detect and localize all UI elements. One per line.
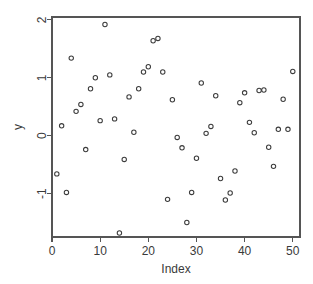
- data-point: [252, 131, 256, 135]
- x-axis-tick-label: 10: [93, 244, 107, 258]
- data-point: [233, 169, 237, 173]
- data-point: [108, 73, 112, 77]
- data-point: [276, 127, 280, 131]
- data-point: [117, 231, 121, 235]
- data-point: [103, 22, 107, 26]
- data-point: [214, 94, 218, 98]
- data-point: [98, 118, 102, 122]
- data-point: [218, 176, 222, 180]
- y-axis-tick-label: 1: [35, 74, 49, 81]
- data-point: [281, 97, 285, 101]
- data-point: [112, 117, 116, 121]
- data-point: [257, 88, 261, 92]
- y-axis-tick-label: -1: [35, 188, 49, 199]
- data-point: [127, 95, 131, 99]
- y-axis-tick-label: 0: [35, 132, 49, 139]
- data-point: [93, 76, 97, 80]
- data-point: [132, 130, 136, 134]
- data-point: [165, 197, 169, 201]
- data-point: [271, 164, 275, 168]
- x-axis-tick-label: 50: [286, 244, 300, 258]
- data-point: [170, 98, 174, 102]
- data-point: [146, 65, 150, 69]
- y-axis-title: y: [11, 124, 25, 130]
- data-point: [247, 120, 251, 124]
- data-point: [59, 124, 63, 128]
- data-point: [55, 172, 59, 176]
- data-point: [185, 220, 189, 224]
- data-point: [141, 70, 145, 74]
- x-axis-tick-label: 30: [190, 244, 204, 258]
- data-point: [156, 36, 160, 40]
- data-point: [267, 145, 271, 149]
- data-point: [199, 81, 203, 85]
- data-point: [228, 191, 232, 195]
- data-point: [180, 146, 184, 150]
- data-point: [286, 127, 290, 131]
- x-axis-tick-label: 0: [49, 244, 56, 258]
- data-point: [84, 147, 88, 151]
- data-point: [175, 135, 179, 139]
- data-point: [79, 102, 83, 106]
- data-point: [189, 190, 193, 194]
- plot-canvas: 01020304050-1012Indexy: [0, 0, 313, 284]
- data-point: [209, 124, 213, 128]
- data-point: [194, 156, 198, 160]
- data-point: [238, 100, 242, 104]
- y-axis-tick-label: 2: [35, 16, 49, 23]
- data-point: [151, 39, 155, 43]
- data-point: [242, 91, 246, 95]
- x-axis-title: Index: [161, 262, 190, 276]
- data-point: [204, 131, 208, 135]
- scatter-plot-figure: 01020304050-1012Indexy: [0, 0, 313, 284]
- data-point: [291, 69, 295, 73]
- data-point: [136, 87, 140, 91]
- x-axis-tick-label: 40: [238, 244, 252, 258]
- data-point: [88, 87, 92, 91]
- data-point: [64, 190, 68, 194]
- data-point: [223, 198, 227, 202]
- plot-box-border: [52, 17, 300, 237]
- data-point: [69, 56, 73, 60]
- x-axis-tick-label: 20: [142, 244, 156, 258]
- data-point: [161, 70, 165, 74]
- data-point: [74, 109, 78, 113]
- data-point: [122, 157, 126, 161]
- data-point: [262, 88, 266, 92]
